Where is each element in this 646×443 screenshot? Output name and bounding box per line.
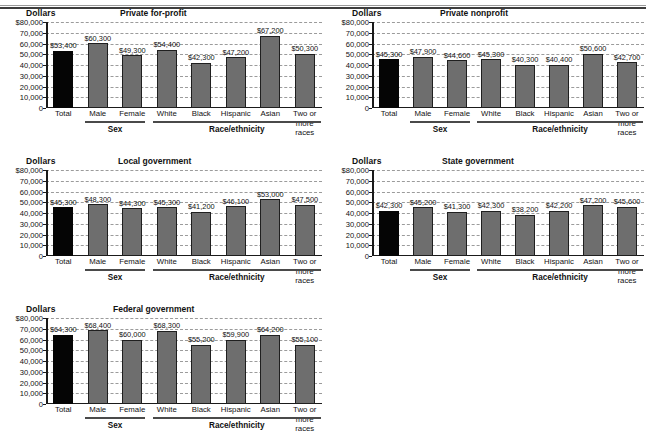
bar xyxy=(295,345,315,404)
bar-slot xyxy=(379,170,399,256)
bar-value-label: $59,900 xyxy=(218,330,255,339)
bar-value-label: $44,300 xyxy=(114,199,151,208)
group-rule-race xyxy=(477,269,642,271)
bar xyxy=(260,199,280,256)
x-axis-category-label: Total xyxy=(46,109,81,118)
bar-value-label: $64,300 xyxy=(45,325,82,334)
bar-value-label: $40,400 xyxy=(541,55,577,64)
bar xyxy=(295,54,315,108)
bar-slot xyxy=(260,170,280,256)
x-axis-category-label: Female xyxy=(115,257,150,266)
group-label-race: Race/ethnicity xyxy=(153,421,321,430)
bar-slot xyxy=(191,170,211,256)
bar-slot xyxy=(413,22,433,108)
y-axis-tick-label: 40,000 xyxy=(20,61,43,70)
bar xyxy=(226,57,246,108)
bar xyxy=(191,345,211,404)
bar-slot xyxy=(413,170,433,256)
bar xyxy=(413,57,433,108)
bar xyxy=(88,330,108,404)
group-label-race: Race/ethnicity xyxy=(477,273,642,282)
chart-panel-local-government: DollarsLocal government$80,00070,00060,0… xyxy=(0,156,330,299)
bar-value-label: $47,200 xyxy=(575,196,611,205)
y-axis-tick-label: 70,000 xyxy=(346,176,369,185)
y-axis-tick-label: 60,000 xyxy=(346,187,369,196)
x-axis-category-label: Female xyxy=(115,109,150,118)
x-axis-category-label: White xyxy=(150,257,185,266)
bar-value-label: $42,700 xyxy=(609,53,645,62)
bar-slot xyxy=(88,318,108,404)
x-axis-category-label: White xyxy=(474,109,508,118)
x-axis-category-label: Male xyxy=(406,257,440,266)
bar-value-label: $42,200 xyxy=(541,201,577,210)
x-axis-category-label: Total xyxy=(372,109,406,118)
bar-value-label: $45,300 xyxy=(149,198,186,207)
y-axis-tick-label: 0 xyxy=(39,252,43,261)
chart-panel-private-for-profit: DollarsPrivate for-profit$80,00070,00060… xyxy=(0,8,330,151)
bar xyxy=(53,207,73,256)
bar xyxy=(549,211,569,256)
y-axis-tick-label: $80,000 xyxy=(342,166,369,175)
y-axis-tick-label: 50,000 xyxy=(346,50,369,59)
x-axis-category-label: Hispanic xyxy=(219,109,254,118)
y-axis-unit-label: Dollars xyxy=(26,304,56,314)
bar-slot xyxy=(549,22,569,108)
y-axis-tick-label: 10,000 xyxy=(346,241,369,250)
group-label-sex: Sex xyxy=(85,421,146,430)
y-axis-tick-label: 10,000 xyxy=(20,93,43,102)
x-axis-category-label: Asian xyxy=(253,405,288,414)
chart-title: Private nonprofit xyxy=(440,8,508,18)
chart-title: Federal government xyxy=(113,304,194,314)
bar-slot xyxy=(157,22,177,108)
bar-value-label: $45,300 xyxy=(371,50,407,59)
bar-value-label: $49,300 xyxy=(114,46,151,55)
bar xyxy=(481,211,501,256)
x-axis-category-label: Female xyxy=(115,405,150,414)
bar-slot xyxy=(191,318,211,404)
y-axis-unit-label: Dollars xyxy=(352,156,382,166)
y-axis-tick-label: 50,000 xyxy=(20,198,43,207)
bar xyxy=(515,65,535,108)
y-axis-tick-label: 60,000 xyxy=(20,187,43,196)
y-axis-tick-label: 30,000 xyxy=(20,367,43,376)
x-axis-category-label: Hispanic xyxy=(542,109,576,118)
bar xyxy=(226,206,246,256)
x-axis-category-label: Male xyxy=(81,405,116,414)
x-axis-category-label: Male xyxy=(81,257,116,266)
bar-value-label: $53,400 xyxy=(45,41,82,50)
x-axis-category-label: Male xyxy=(406,109,440,118)
x-axis-category-label: Male xyxy=(81,109,116,118)
y-axis-tick-label: 50,000 xyxy=(346,198,369,207)
group-label-sex: Sex xyxy=(85,273,146,282)
group-label-race: Race/ethnicity xyxy=(153,125,321,134)
x-axis-category-label: Total xyxy=(372,257,406,266)
bar-value-label: $45,300 xyxy=(45,198,82,207)
group-rule-race xyxy=(477,121,642,123)
bar xyxy=(191,63,211,108)
y-axis-tick-label: 30,000 xyxy=(20,219,43,228)
group-rule-sex xyxy=(410,269,470,271)
bar-slot xyxy=(515,22,535,108)
bar-slot xyxy=(122,22,142,108)
bar-series: $53,400$60,300$49,300$54,400$42,300$47,2… xyxy=(46,22,322,108)
bar-value-label: $60,300 xyxy=(80,34,117,43)
bar xyxy=(226,340,246,404)
plot-area: $80,00070,00060,00050,00040,00030,00020,… xyxy=(372,170,644,256)
bar-slot xyxy=(583,170,603,256)
bar xyxy=(447,60,467,108)
bar-value-label: $55,200 xyxy=(183,335,220,344)
bar-slot xyxy=(617,170,637,256)
bar-series: $45,300$47,900$44,600$45,300$40,300$40,4… xyxy=(372,22,644,108)
bar xyxy=(122,55,142,108)
y-axis-tick-label: 0 xyxy=(39,400,43,409)
y-axis-tick-label: 70,000 xyxy=(20,28,43,37)
bar xyxy=(379,59,399,108)
bar-series: $64,300$68,400$60,000$68,300$55,200$59,9… xyxy=(46,318,322,404)
bar-value-label: $40,300 xyxy=(507,55,543,64)
bar xyxy=(295,205,315,256)
y-axis-tick-label: 70,000 xyxy=(20,176,43,185)
bar-series: $45,300$48,300$44,300$45,300$41,200$46,1… xyxy=(46,170,322,256)
bar-value-label: $46,100 xyxy=(218,197,255,206)
chart-panel-state-government: DollarsState government$80,00070,00060,0… xyxy=(330,156,646,299)
y-axis-tick-label: 30,000 xyxy=(346,71,369,80)
